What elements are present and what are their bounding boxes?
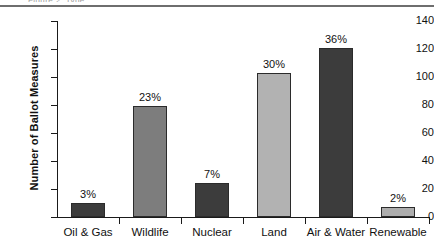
x-axis-tick-mark (367, 218, 368, 224)
bar-value-label: 3% (80, 188, 96, 200)
bar-value-label: 7% (204, 168, 220, 180)
x-axis-category-label: Air & Water (307, 226, 365, 238)
bar (71, 203, 105, 217)
x-axis-tick-mark (243, 218, 244, 224)
bar-chart-figure: Figure 2. Type Number of Ballot Measures… (0, 0, 434, 240)
bar (257, 73, 291, 217)
bar (381, 207, 415, 217)
bar (195, 183, 229, 217)
x-axis-tick-mark (305, 218, 306, 224)
y-axis-title: Number of Ballot Measures (28, 23, 40, 213)
x-axis-category-label: Nuclear (192, 226, 232, 238)
x-axis-category-label: Oil & Gas (63, 226, 112, 238)
bar-value-label: 30% (263, 58, 285, 70)
header-divider-rule (0, 5, 434, 7)
x-axis-category-label: Wildlife (131, 226, 168, 238)
x-axis-category-label: Renewable (369, 226, 427, 238)
clipped-header-text: Figure 2. Type (28, 0, 85, 2)
plot-area (57, 21, 429, 217)
bar-value-label: 2% (390, 192, 406, 204)
x-axis-category-label: Land (261, 226, 287, 238)
bar (319, 48, 353, 217)
x-axis-tick-mark (181, 218, 182, 224)
bar-value-label: 36% (325, 33, 347, 45)
x-axis-tick-mark (429, 218, 430, 224)
x-axis-tick-mark (119, 218, 120, 224)
bar (133, 106, 167, 217)
bar-value-label: 23% (139, 91, 161, 103)
